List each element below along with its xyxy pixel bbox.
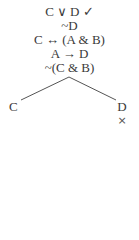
close-icon: × (116, 114, 128, 128)
branch-left: C (9, 100, 18, 114)
branch-right: D × (116, 100, 128, 128)
formula: C (9, 99, 18, 114)
formula: D (116, 100, 128, 114)
